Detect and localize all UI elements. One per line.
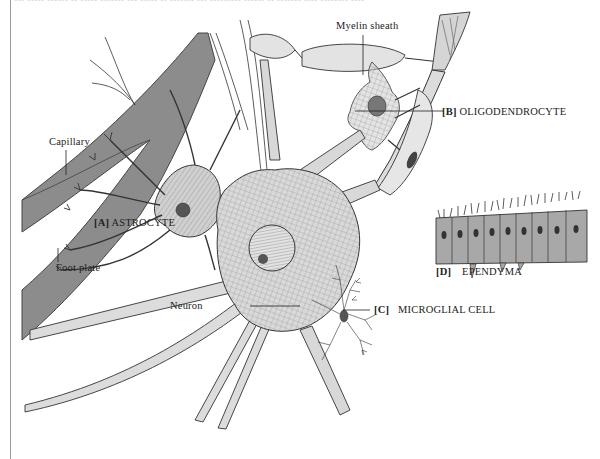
label-microglial-cell: [C] MICROGLIAL CELL — [374, 304, 495, 315]
label-ependyma: [D] EPENDYMA — [436, 266, 522, 277]
neuroglia-illustration — [0, 0, 600, 459]
microglial-key: [C] — [374, 304, 389, 315]
label-astrocyte: [A] ASTROCYTE — [94, 217, 175, 228]
ependyma-key: [D] — [436, 266, 451, 277]
oligodendrocyte-text: OLIGODENDROCYTE — [459, 106, 566, 117]
microglial-text: MICROGLIAL CELL — [398, 304, 495, 315]
myelin-sheath — [250, 34, 440, 71]
ependyma-text: EPENDYMA — [462, 266, 522, 277]
astrocyte-key: [A] — [94, 217, 109, 228]
label-myelin-sheath: Myelin sheath — [336, 20, 398, 31]
neuron — [217, 169, 360, 332]
label-capillary: Capillary — [49, 136, 90, 147]
ependyma — [436, 191, 587, 278]
label-foot-plate: Foot plate — [56, 262, 100, 273]
label-oligodendrocyte: [B] OLIGODENDROCYTE — [442, 106, 566, 117]
astrocyte-text: ASTROCYTE — [111, 217, 175, 228]
label-neuron: Neuron — [170, 300, 203, 311]
oligodendrocyte-key: [B] — [442, 106, 457, 117]
